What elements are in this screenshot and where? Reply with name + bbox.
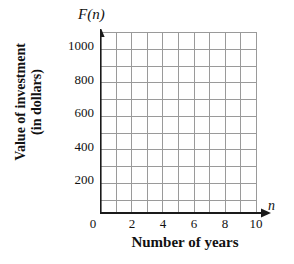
y-axis-title-line-1: Value of investment bbox=[13, 43, 29, 161]
x-tick-label: 2 bbox=[129, 216, 136, 232]
x-tick-label: 10 bbox=[250, 216, 263, 232]
y-tick-label: 800 bbox=[46, 72, 94, 88]
x-tick-labels: 0 2 4 6 8 10 bbox=[0, 216, 294, 236]
x-tick-label: 4 bbox=[160, 216, 167, 232]
x-tick-label-origin: 0 bbox=[90, 216, 97, 232]
y-tick-label: 400 bbox=[46, 139, 94, 155]
x-tick-label: 6 bbox=[191, 216, 198, 232]
x-axis-variable-label: n bbox=[268, 198, 275, 214]
y-axis-line bbox=[100, 29, 105, 214]
grid-svg bbox=[100, 29, 272, 221]
x-tick-label: 8 bbox=[222, 216, 229, 232]
plot-area bbox=[100, 29, 256, 213]
investment-graph-figure: F(n) Value of investment (in dollars) bbox=[0, 0, 294, 264]
y-tick-label: 200 bbox=[46, 172, 94, 188]
y-tick-label: 1000 bbox=[46, 38, 94, 54]
y-tick-label: 600 bbox=[46, 105, 94, 121]
x-axis-title: Number of years bbox=[0, 234, 294, 251]
vertical-gridlines bbox=[101, 32, 257, 213]
